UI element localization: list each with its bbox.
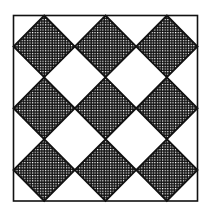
hatched-diamond (14, 139, 75, 201)
hatched-diamond (14, 16, 75, 78)
diamond-pattern-figure (0, 0, 209, 211)
hatched-diamond (14, 77, 75, 139)
hatched-diamond (136, 139, 197, 201)
hatched-diamond (136, 16, 197, 78)
hatched-diamond (75, 16, 136, 78)
hatched-diamond (75, 77, 136, 139)
hatched-diamond (75, 139, 136, 201)
hatched-diamond (136, 77, 197, 139)
diamond-group (14, 16, 198, 202)
